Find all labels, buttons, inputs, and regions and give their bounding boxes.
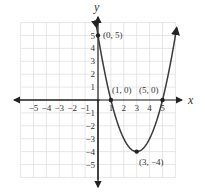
y-axis-label: y: [93, 0, 100, 14]
x-tick-label: 4: [147, 103, 152, 113]
y-tick-label: 3: [91, 56, 96, 66]
y-tick-label: −5: [85, 160, 95, 170]
x-tick-label: 2: [122, 103, 127, 113]
y-tick-label: −3: [85, 134, 95, 144]
point-marker: [160, 98, 164, 102]
x-axis-label: x: [187, 93, 194, 107]
chart-canvas: −5−4−3−2−11234554321−1−2−3−4−5 y x (0, 5…: [0, 0, 205, 192]
point-label-5-0: (5, 0): [139, 85, 159, 95]
y-tick-label: −2: [85, 121, 95, 131]
x-tick-label: −2: [67, 103, 77, 113]
y-tick-label: −4: [85, 147, 95, 157]
point-label-3-neg4: (3, −4): [139, 157, 164, 167]
y-tick-label: −1: [85, 108, 95, 118]
parabola-graph: −5−4−3−2−11234554321−1−2−3−4−5 y x (0, 5…: [0, 0, 205, 192]
y-tick-label: 1: [91, 82, 96, 92]
x-tick-label: −5: [29, 103, 39, 113]
y-tick-label: 2: [91, 69, 96, 79]
point-label-1-0: (1, 0): [112, 85, 132, 95]
point-marker: [135, 149, 139, 153]
y-tick-label: 4: [91, 43, 96, 53]
y-tick-label: 5: [91, 31, 96, 41]
point-marker: [109, 98, 113, 102]
x-tick-label: −4: [42, 103, 52, 113]
x-tick-label: 5: [160, 103, 165, 113]
x-tick-label: 1: [109, 103, 114, 113]
point-label-0-5: (0, 5): [103, 30, 123, 40]
x-tick-label: −3: [55, 103, 65, 113]
point-marker: [96, 33, 100, 37]
x-tick-label: 3: [134, 103, 139, 113]
